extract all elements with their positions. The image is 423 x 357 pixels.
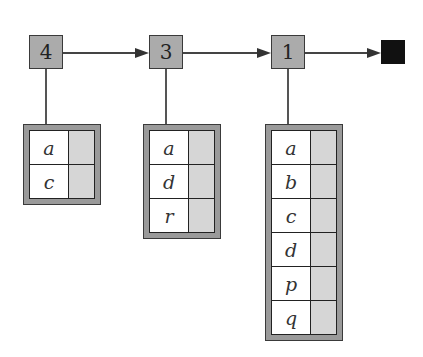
value-cell	[69, 165, 94, 198]
key-cell: d	[272, 233, 311, 266]
arrow-line	[305, 52, 369, 54]
key-cell: d	[150, 165, 189, 198]
key-cell: a	[272, 131, 311, 164]
key-cell: r	[150, 199, 189, 232]
null-terminator-icon	[381, 40, 405, 64]
node-label: 4	[40, 40, 53, 64]
table-row: a	[272, 131, 336, 164]
linked-list-diagram: 4 3 1 a c a	[0, 0, 423, 357]
list-node-1: 1	[271, 35, 305, 69]
table-row: a	[150, 131, 214, 164]
value-cell	[69, 131, 94, 164]
value-cell	[311, 199, 336, 232]
value-cell	[189, 131, 214, 164]
arrowhead-icon	[257, 48, 271, 58]
connector-line	[287, 69, 289, 124]
list-node-4: 4	[29, 35, 63, 69]
key-cell: p	[272, 267, 311, 300]
arrowhead-icon	[135, 48, 149, 58]
table-row: d	[272, 232, 336, 266]
table-row: b	[272, 164, 336, 198]
value-cell	[311, 267, 336, 300]
arrow-line	[63, 52, 137, 54]
value-cell	[189, 199, 214, 232]
node-label: 1	[282, 40, 295, 64]
key-cell: c	[272, 199, 311, 232]
key-cell: a	[150, 131, 189, 164]
list-node-3: 3	[149, 35, 183, 69]
value-cell	[311, 301, 336, 334]
table-row: r	[150, 198, 214, 232]
value-cell	[311, 233, 336, 266]
key-cell: q	[272, 301, 311, 334]
key-table-node-3: a d r	[143, 124, 221, 239]
table-row: c	[30, 164, 94, 198]
connector-line	[165, 69, 167, 124]
arrowhead-icon	[367, 48, 381, 58]
table-row: p	[272, 266, 336, 300]
key-table-node-1: a b c d p q	[265, 124, 343, 341]
value-cell	[189, 165, 214, 198]
key-table-node-4: a c	[23, 124, 101, 205]
node-label: 3	[160, 40, 173, 64]
table-row: c	[272, 198, 336, 232]
key-cell: a	[30, 131, 69, 164]
table-row: d	[150, 164, 214, 198]
value-cell	[311, 131, 336, 164]
key-cell: b	[272, 165, 311, 198]
table-row: a	[30, 131, 94, 164]
value-cell	[311, 165, 336, 198]
arrow-line	[183, 52, 259, 54]
key-cell: c	[30, 165, 69, 198]
connector-line	[45, 69, 47, 124]
table-row: q	[272, 300, 336, 334]
